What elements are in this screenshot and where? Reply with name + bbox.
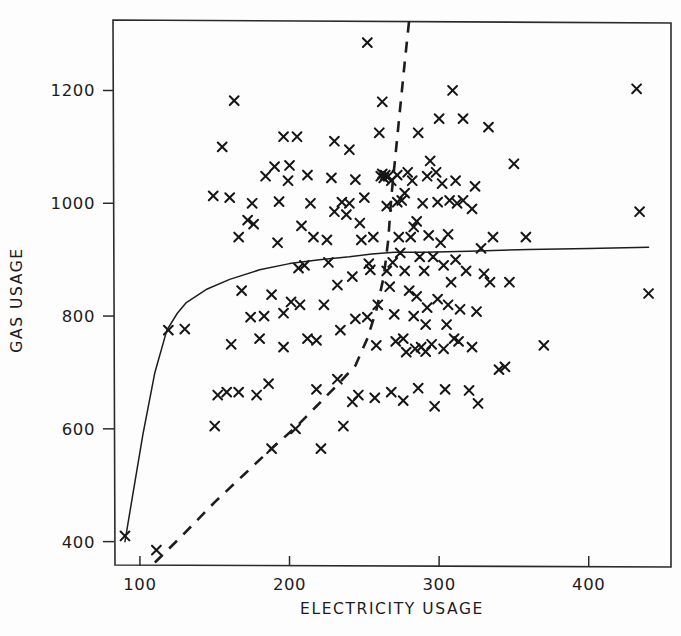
scatter-point-marker <box>309 233 318 242</box>
scatter-point-marker <box>333 375 342 384</box>
scatter-point-marker <box>291 424 300 433</box>
scatter-point-marker <box>412 292 421 301</box>
scatter-point-marker <box>320 300 329 309</box>
scatter-point-marker <box>471 182 480 191</box>
scatter-point-marker <box>423 303 432 312</box>
scatter-point-marker <box>327 173 336 182</box>
y-tick-label: 800 <box>62 307 95 326</box>
scatter-point-marker <box>632 84 641 93</box>
scatter-point-marker <box>433 295 442 304</box>
scatter-point-marker <box>348 272 357 281</box>
scatter-point-marker <box>451 255 460 264</box>
regression-curves-layer <box>125 20 649 562</box>
scatter-point-marker <box>270 162 279 171</box>
dashed-regression-curve <box>155 20 409 562</box>
scatter-point-marker <box>539 341 548 350</box>
scatter-point-marker <box>433 198 442 207</box>
x-axis-title: ELECTRICITY USAGE <box>300 600 484 618</box>
scatter-point-marker <box>459 114 468 123</box>
scatter-point-marker <box>387 388 396 397</box>
scatter-point-marker <box>369 233 378 242</box>
y-axis-title: GAS USAGE <box>8 247 26 352</box>
scatter-point-marker <box>246 313 255 322</box>
scatter-point-marker <box>209 192 218 201</box>
axis-frame <box>113 20 671 567</box>
scatter-point-marker <box>180 325 189 334</box>
scatter-point-marker <box>429 252 438 261</box>
scatter-point-marker <box>333 281 342 290</box>
scatter-point-marker <box>345 145 354 154</box>
x-tick-label: 400 <box>572 575 605 594</box>
scatter-point-marker <box>293 132 302 141</box>
scatter-point-marker <box>370 393 379 402</box>
y-tick-label: 1000 <box>51 194 95 213</box>
scatter-point-marker <box>474 399 483 408</box>
scatter-point-marker <box>400 267 409 276</box>
scatter-point-marker <box>521 233 530 242</box>
scatter-point-marker <box>399 334 408 343</box>
x-tick-label: 300 <box>422 575 455 594</box>
scatter-point-marker <box>445 196 454 205</box>
scatter-point-marker <box>303 334 312 343</box>
x-axis-ticks: 100200300400 <box>123 556 605 594</box>
scatter-point-marker <box>439 344 448 353</box>
scatter-point-marker <box>424 231 433 240</box>
y-tick-label: 400 <box>62 533 95 552</box>
scatter-point-marker <box>378 97 387 106</box>
scatter-point-marker <box>448 86 457 95</box>
scatter-point-marker <box>363 313 372 322</box>
scatter-point-marker <box>375 128 384 137</box>
scatter-point-marker <box>317 444 326 453</box>
scatter-point-marker <box>312 336 321 345</box>
scatter-point-marker <box>303 171 312 180</box>
scatter-point-marker <box>312 385 321 394</box>
scatter-point-marker <box>366 265 375 274</box>
scatter-point-marker <box>306 199 315 208</box>
scatter-point-marker <box>438 179 447 188</box>
scatter-point-marker <box>234 388 243 397</box>
scatter-point-marker <box>427 340 436 349</box>
scatter-point-marker <box>421 320 430 329</box>
scatter-point-marker <box>644 289 653 298</box>
scatter-point-marker <box>489 233 498 242</box>
scatter-point-marker <box>284 176 293 185</box>
scatter-point-marker <box>252 391 261 400</box>
scatter-point-marker <box>296 300 305 309</box>
plot-canvas: 100200300400 40060080010001200 ELECTRICI… <box>0 0 681 636</box>
scatter-point-marker <box>456 305 465 314</box>
scatter-point-marker <box>439 261 448 270</box>
scatter-point-marker <box>330 137 339 146</box>
scatter-point-marker <box>230 96 239 105</box>
scatter-point-marker <box>152 546 161 555</box>
scatter-point-marker <box>273 238 282 247</box>
scatter-markers-layer <box>121 38 653 554</box>
scatter-point-marker <box>225 193 234 202</box>
y-tick-label: 1200 <box>51 81 95 100</box>
scatter-point-marker <box>279 343 288 352</box>
scatter-point-marker <box>451 176 460 185</box>
scatter-point-marker <box>222 388 231 397</box>
scatter-point-marker <box>348 397 357 406</box>
scatter-point-marker <box>237 286 246 295</box>
scatter-point-marker <box>355 219 364 228</box>
scatter-point-marker <box>444 300 453 309</box>
scatter-point-marker <box>261 172 270 181</box>
scatter-point-marker <box>210 422 219 431</box>
x-tick-label: 100 <box>123 575 156 594</box>
plot-frame <box>113 20 671 567</box>
scatter-point-marker <box>394 233 403 242</box>
scatter-point-marker <box>323 236 332 245</box>
scatter-point-marker <box>213 391 222 400</box>
scatter-point-marker <box>472 307 481 316</box>
scatter-point-marker <box>339 422 348 431</box>
scatter-point-marker <box>234 233 243 242</box>
scatter-point-marker <box>399 396 408 405</box>
scatter-point-marker <box>227 340 236 349</box>
scatter-point-marker <box>510 159 519 168</box>
solid-regression-curve <box>125 247 649 541</box>
scatter-point-marker <box>330 207 339 216</box>
scatter-point-marker <box>462 267 471 276</box>
scatter-point-marker <box>342 210 351 219</box>
scatter-point-marker <box>363 38 372 47</box>
scatter-point-marker <box>255 334 264 343</box>
